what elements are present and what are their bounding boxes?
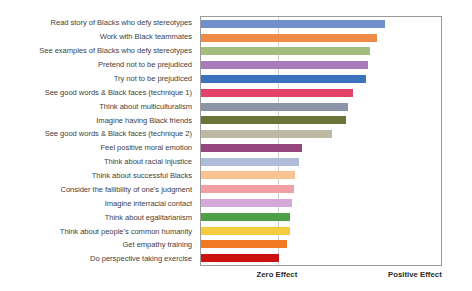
category-label: Consider the fallibility of one's judgme… [61, 185, 196, 194]
category-label: Try not to be prejudiced [114, 74, 196, 83]
category-label: Imagine having Black friends [96, 116, 196, 125]
bar-chart-figure: Read story of Blacks who defy stereotype… [0, 0, 472, 291]
category-label: Get empathy training [123, 240, 197, 249]
bar [201, 75, 366, 83]
bar-row [201, 86, 441, 100]
category-label: Think about racial injustice [104, 157, 196, 166]
bar [201, 89, 353, 97]
category-label-column: Read story of Blacks who defy stereotype… [0, 16, 196, 266]
bar-row [201, 72, 441, 86]
bar-row [201, 155, 441, 169]
bar-row [201, 58, 441, 72]
bar [201, 254, 279, 262]
bar [201, 213, 290, 221]
bar [201, 103, 348, 111]
bar [201, 61, 368, 69]
plot-area [200, 16, 442, 266]
bar-row [201, 182, 441, 196]
axis-caption-zero-effect: Zero Effect [257, 270, 298, 279]
bar [201, 240, 287, 248]
bar [201, 116, 346, 124]
category-label: Think about multiculturalism [99, 102, 196, 111]
category-label: Do perspective taking exercise [90, 254, 196, 263]
bar-row [201, 45, 441, 59]
bar [201, 227, 290, 235]
category-label: See good words & Black faces (technique … [45, 129, 196, 138]
category-label: See examples of Blacks who defy stereoty… [39, 46, 196, 55]
bar-row [201, 113, 441, 127]
axis-caption-positive-effect: Positive Effect [388, 270, 442, 279]
bar-row [201, 169, 441, 183]
category-label: Think about egalitarianism [105, 213, 196, 222]
bar-series [201, 17, 441, 265]
category-label: Pretend not to be prejudiced [98, 60, 196, 69]
bar [201, 20, 385, 28]
category-label: See good words & Black faces (technique … [45, 88, 196, 97]
bar [201, 130, 332, 138]
category-label: Work with Black teammates [100, 32, 196, 41]
category-label: Imagine interracial contact [105, 199, 196, 208]
bar-row [201, 141, 441, 155]
bar-row [201, 224, 441, 238]
category-label: Read story of Blacks who defy stereotype… [51, 18, 196, 27]
bar-row [201, 127, 441, 141]
bar [201, 185, 294, 193]
bar-row [201, 210, 441, 224]
bar-row [201, 238, 441, 252]
bar-row [201, 100, 441, 114]
bar [201, 34, 377, 42]
category-label: Feel positive moral emotion [100, 143, 196, 152]
bar [201, 158, 299, 166]
bar-row [201, 196, 441, 210]
bar [201, 47, 370, 55]
category-label: Think about people's common humanity [60, 227, 196, 236]
bar-row [201, 17, 441, 31]
bar [201, 199, 292, 207]
bar [201, 171, 295, 179]
bar-row [201, 251, 441, 265]
bar [201, 144, 302, 152]
category-label: Think about successful Blacks [92, 171, 196, 180]
bar-row [201, 31, 441, 45]
